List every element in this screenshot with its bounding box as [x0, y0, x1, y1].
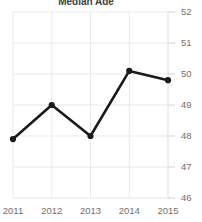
data-point-marker [49, 102, 55, 108]
y-axis-tick-label: 51 [181, 37, 192, 48]
data-point-marker [126, 68, 132, 74]
plot-area [0, 0, 202, 222]
y-axis-tick-label: 47 [181, 161, 192, 172]
data-point-marker [10, 136, 16, 142]
x-axis-tick-label: 2014 [109, 205, 149, 216]
y-axis-tick-label: 46 [181, 192, 192, 203]
y-axis-tick-label: 49 [181, 99, 192, 110]
x-axis-tick-label: 2013 [71, 205, 111, 216]
y-axis-tick-label: 52 [181, 6, 192, 17]
data-point-marker [87, 133, 93, 139]
x-axis-tick-label: 2015 [148, 205, 188, 216]
data-point-marker [165, 77, 171, 83]
y-axis-tick-label: 50 [181, 68, 192, 79]
x-axis-tick-label: 2012 [32, 205, 72, 216]
y-axis-tick-label: 48 [181, 130, 192, 141]
line-chart: Median Age 46474849505152 20112012201320… [0, 0, 202, 222]
x-axis-tick-label: 2011 [0, 205, 33, 216]
y-axis-tick-marks [168, 12, 175, 198]
